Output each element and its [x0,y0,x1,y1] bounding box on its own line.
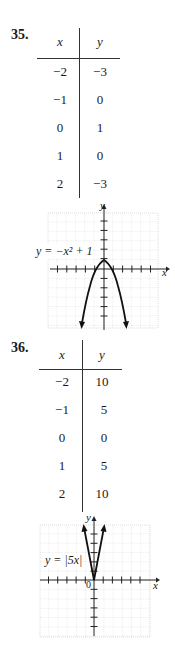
equation-label: y = |5x| [45,553,82,568]
y-axis-label: y [86,511,91,523]
origin-label: 0 [86,579,91,590]
x-axis-label: x [153,579,158,591]
absolute-value-graph [0,0,175,667]
